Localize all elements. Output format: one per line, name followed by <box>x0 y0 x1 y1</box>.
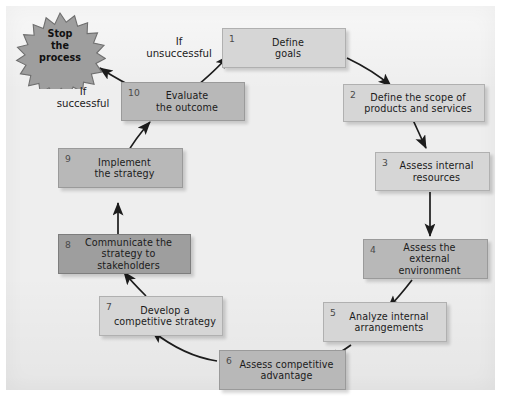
node-1-label: Define goals <box>258 37 310 60</box>
node-9-label: Implement the strategy <box>80 157 160 180</box>
node-6-assess-competitive-advantage[interactable]: 6 Assess competitive advantage <box>219 350 346 390</box>
node-9-number: 9 <box>65 154 71 165</box>
node-3-number: 3 <box>382 158 388 169</box>
node-2-number: 2 <box>350 90 356 101</box>
node-3-assess-internal-resources[interactable]: 3 Assess internal resources <box>375 152 490 191</box>
node-6-label: Assess competitive advantage <box>225 359 339 382</box>
stop-process-terminator: Stop the process <box>14 11 106 89</box>
node-8-number: 8 <box>65 240 71 251</box>
node-10-number: 10 <box>128 88 140 99</box>
node-8-communicate-strategy[interactable]: 8 Communicate the strategy to stakeholde… <box>58 234 191 274</box>
stop-process-label: Stop the process <box>14 28 106 64</box>
node-7-number: 7 <box>106 302 112 313</box>
node-7-develop-competitive-strategy[interactable]: 7 Develop a competitive strategy <box>99 296 223 336</box>
node-5-number: 5 <box>330 308 336 319</box>
node-3-label: Assess internal resources <box>386 160 480 183</box>
annotation-if-successful: If successful <box>40 86 126 110</box>
node-1-number: 1 <box>229 34 235 45</box>
node-10-evaluate-outcome[interactable]: 10 Evaluate the outcome <box>121 82 245 121</box>
node-4-number: 4 <box>370 245 376 256</box>
node-1-define-goals[interactable]: 1 Define goals <box>222 28 346 68</box>
node-9-implement-strategy[interactable]: 9 Implement the strategy <box>58 148 183 188</box>
annotation-if-unsuccessful: If unsuccessful <box>133 36 225 60</box>
node-10-label: Evaluate the outcome <box>142 90 224 113</box>
node-4-label: Assess the external environment <box>364 242 487 276</box>
node-5-analyze-internal-arrangements[interactable]: 5 Analyze internal arrangements <box>323 302 447 342</box>
node-2-label: Define the scope of products and service… <box>350 92 478 115</box>
node-7-label: Develop a competitive strategy <box>100 305 222 328</box>
node-6-number: 6 <box>226 356 232 367</box>
node-2-define-scope[interactable]: 2 Define the scope of products and servi… <box>343 84 485 122</box>
node-8-label: Communicate the strategy to stakeholders <box>59 237 190 271</box>
node-5-label: Analyze internal arrangements <box>335 311 434 334</box>
node-4-assess-external-environment[interactable]: 4 Assess the external environment <box>363 239 488 279</box>
